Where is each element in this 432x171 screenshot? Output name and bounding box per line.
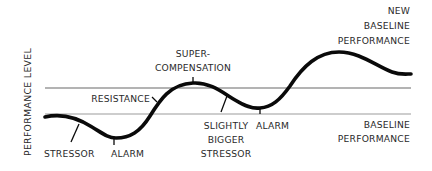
stressor-label: STRESSOR <box>44 148 95 159</box>
alarm-2-label: ALARM <box>256 120 289 131</box>
alarm-1-label: ALARM <box>111 148 144 159</box>
supercompensation-label-line2: COMPENSATION <box>155 62 231 73</box>
bigger-stressor-label-line1: SLIGHTLY <box>204 120 249 131</box>
resistance-leader <box>152 97 157 102</box>
new-baseline-label-line2: BASELINE <box>364 20 410 31</box>
new-baseline-label-line1: NEW <box>388 5 410 16</box>
y-axis-label: PERFORMANCE LEVEL <box>22 47 33 156</box>
stressor-leader <box>71 124 79 142</box>
bigger-stressor-leader <box>221 96 227 112</box>
bigger-stressor-label-line3: STRESSOR <box>201 148 252 159</box>
supercompensation-label-line1: SUPER- <box>176 48 210 59</box>
baseline-label-line2: PERFORMANCE <box>338 133 410 144</box>
bigger-stressor-label-line2: BIGGER <box>208 134 245 145</box>
new-baseline-label-line3: PERFORMANCE <box>338 35 410 46</box>
baseline-label-line1: BASELINE <box>364 119 410 130</box>
supercompensation-diagram: PERFORMANCE LEVEL STRESSOR ALARM RESISTA… <box>0 0 432 171</box>
resistance-label: RESISTANCE <box>91 93 150 104</box>
